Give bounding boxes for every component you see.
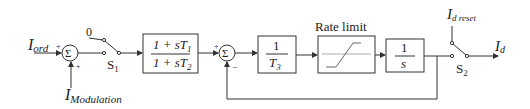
svg-text:Iord: Iord bbox=[27, 36, 49, 54]
svg-text:1 + sT1: 1 + sT1 bbox=[153, 37, 192, 54]
integrator-block: 1 s bbox=[386, 39, 424, 72]
summing-junction-2: Σ bbox=[219, 45, 235, 61]
sum2-minus-sign: − bbox=[232, 62, 237, 72]
svg-text:S1: S1 bbox=[107, 57, 119, 74]
svg-text:1: 1 bbox=[273, 38, 280, 53]
zero-input-line bbox=[89, 38, 103, 40]
svg-text:Σ: Σ bbox=[65, 47, 71, 59]
input-i-modulation-label: IModulation bbox=[64, 86, 122, 105]
switch-s2-label: S2 bbox=[456, 61, 468, 78]
sum1-plus-sign-left: + bbox=[56, 42, 61, 51]
summing-junction-1: Σ bbox=[62, 45, 78, 61]
rate-limit-label: Rate limit bbox=[315, 19, 367, 34]
svg-text:Σ: Σ bbox=[222, 47, 228, 59]
zero-input-label: 0 bbox=[86, 25, 92, 39]
svg-text:s: s bbox=[401, 56, 406, 71]
svg-text:Id: Id bbox=[494, 38, 506, 55]
output-i-d-label: Id bbox=[494, 38, 506, 55]
sum1-plus-sign-bottom: + bbox=[76, 62, 81, 71]
switch-s1 bbox=[102, 38, 120, 54]
svg-text:IModulation: IModulation bbox=[64, 86, 122, 105]
lead-lag-block: 1 + sT1 1 + sT2 bbox=[143, 34, 198, 73]
rate-limit-block bbox=[318, 36, 375, 73]
svg-text:S2: S2 bbox=[456, 61, 468, 78]
svg-text:1 + sT2: 1 + sT2 bbox=[153, 55, 192, 72]
control-block-diagram: Iord + Σ + IModulation 0 S1 1 + sT1 1 + … bbox=[0, 0, 530, 109]
input-i-d-reset-label: Id reset bbox=[446, 6, 476, 23]
switch-s1-label: S1 bbox=[107, 57, 119, 74]
sum2-plus-sign: + bbox=[214, 42, 219, 51]
gain-block-1-over-t3: 1 T3 bbox=[258, 36, 296, 73]
input-i-ord-label: Iord bbox=[27, 36, 49, 54]
switch-s2 bbox=[450, 41, 468, 57]
svg-text:1: 1 bbox=[401, 40, 408, 55]
svg-text:Id reset: Id reset bbox=[446, 6, 476, 23]
